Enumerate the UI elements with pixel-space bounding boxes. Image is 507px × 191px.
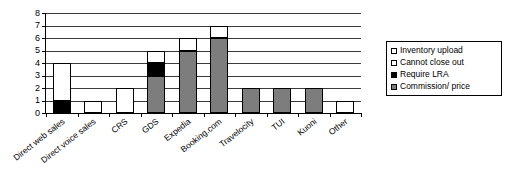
legend-item-commission-price: Commission/ price (391, 81, 498, 92)
legend-label-require-lra: Require LRA (400, 70, 449, 79)
legend-label-cannot-close-out: Cannot close out (400, 58, 464, 67)
legend-label-commission-price: Commission/ price (400, 82, 470, 91)
legend-swatch-icon-require-lra (391, 72, 397, 78)
legend-item-cannot-close-out: Cannot close out (391, 57, 498, 68)
legend-swatch-icon-inventory-upload (391, 48, 397, 54)
legend-label-inventory-upload: Inventory upload (400, 46, 463, 55)
legend-item-require-lra: Require LRA (391, 69, 498, 80)
legend-item-inventory-upload: Inventory upload (391, 45, 498, 56)
legend-swatch-icon-cannot-close-out (391, 60, 397, 66)
chart-legend: Inventory upload Cannot close out Requir… (386, 41, 502, 96)
bar-chart-figure: 8 7 6 5 4 3 2 1 0 (0, 0, 507, 191)
legend-swatch-icon-commission-price (391, 84, 397, 90)
